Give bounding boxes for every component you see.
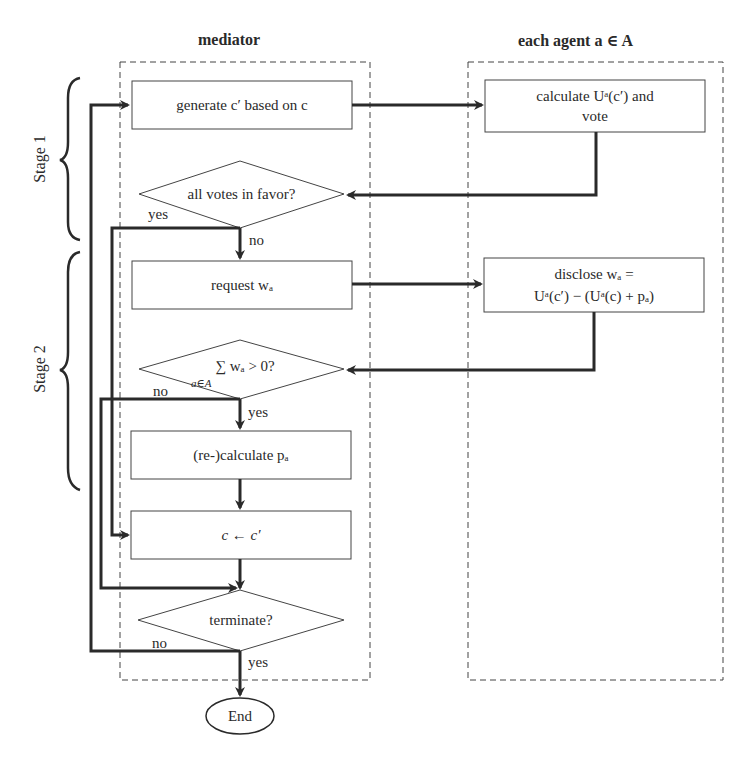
mediator-header: mediator — [198, 31, 260, 49]
stage1-brace — [60, 78, 80, 240]
agent-disclose-line2: Uᵃ(c′) − (Uᵃ(c) + pₐ) — [484, 286, 704, 306]
sum-yes-label: yes — [248, 404, 268, 421]
term-no-label: no — [152, 635, 167, 652]
edge-sum-no — [101, 399, 240, 588]
vote-no-label: no — [249, 232, 264, 249]
sum-check-label: ∑ wₐ > 0? — [170, 354, 320, 378]
terminate-label: terminate? — [138, 608, 344, 632]
edge-disclose-to-sum — [348, 312, 594, 370]
agent-calc-line1: calculate Uᵃ(c′) and — [485, 86, 705, 106]
agent-calc-line2: vote — [485, 106, 705, 126]
sum-no-label: no — [153, 383, 168, 400]
vote-yes-label: yes — [148, 206, 168, 223]
vote-check-label: all votes in favor? — [139, 182, 344, 206]
end-label: End — [206, 704, 274, 728]
stage1-label: Stage 1 — [31, 129, 49, 189]
edge-calc-to-vote — [348, 132, 596, 195]
assign-label: c ← c′ — [131, 511, 351, 559]
recalculate-label: (re-)calculate pₐ — [131, 431, 351, 479]
generate-label: generate c′ based on c — [132, 81, 352, 129]
stage2-brace — [60, 252, 80, 490]
term-yes-label: yes — [248, 654, 268, 671]
agent-disclose-line1: disclose wₐ = — [484, 264, 704, 284]
agent-header: each agent a ∈ A — [518, 31, 633, 50]
request-label: request wₐ — [132, 261, 352, 309]
sum-subscript: a∈A — [191, 377, 211, 390]
stage2-label: Stage 2 — [31, 339, 49, 399]
